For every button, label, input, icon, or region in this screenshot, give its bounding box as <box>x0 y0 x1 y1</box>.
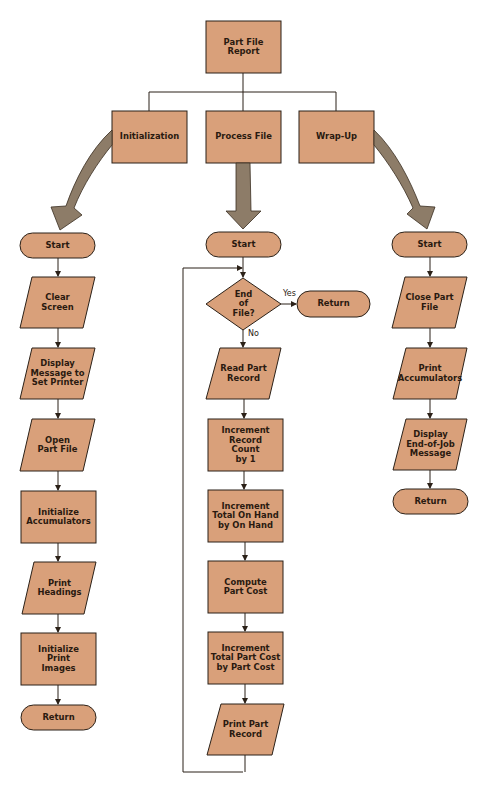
init-return-terminal[interactable] <box>21 705 96 730</box>
increment-total-on-hand-process[interactable] <box>208 490 283 542</box>
module-box-wrap-up[interactable] <box>299 111 374 163</box>
init-start-terminal[interactable] <box>20 233 95 258</box>
top-module-box[interactable] <box>206 21 281 73</box>
init-open-part-file-io[interactable] <box>20 419 95 471</box>
wrap-start-terminal[interactable] <box>392 232 467 257</box>
increment-record-count-process[interactable] <box>208 419 283 471</box>
module-box-process-file[interactable] <box>206 111 281 163</box>
display-end-of-job-io[interactable] <box>393 419 467 470</box>
increment-total-part-cost-process[interactable] <box>208 632 283 684</box>
wrap-up-flow <box>392 232 468 514</box>
init-print-images-process[interactable] <box>21 633 96 685</box>
close-part-file-io[interactable] <box>392 277 467 328</box>
module-box-initialization[interactable] <box>112 111 187 163</box>
yes-label: Yes <box>283 289 296 298</box>
no-label: No <box>248 329 259 338</box>
wrap-return-terminal[interactable] <box>393 489 468 514</box>
init-display-message-io[interactable] <box>20 348 95 399</box>
init-print-headings-io[interactable] <box>22 562 96 614</box>
print-part-record-io[interactable] <box>207 704 284 755</box>
process-start-terminal[interactable] <box>206 232 281 257</box>
process-file-flow <box>183 232 370 772</box>
hierarchy-connectors <box>149 73 336 111</box>
init-accumulators-process[interactable] <box>21 491 96 543</box>
compute-part-cost-process[interactable] <box>208 561 283 613</box>
initialization-flow <box>20 233 96 730</box>
expand-arrow-wrap-up <box>374 130 435 229</box>
end-of-file-decision[interactable] <box>206 278 281 330</box>
init-clear-screen-io[interactable] <box>20 277 95 328</box>
flowchart-canvas <box>0 0 482 788</box>
read-part-record-io[interactable] <box>206 348 281 399</box>
print-accumulators-io[interactable] <box>393 348 467 399</box>
process-return-terminal[interactable] <box>297 291 370 317</box>
expand-arrow-initialization <box>51 130 112 230</box>
expand-arrow-process-file <box>226 163 261 229</box>
